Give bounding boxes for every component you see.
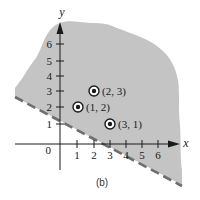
point-label: (1, 2): [86, 101, 110, 114]
y-tick-label-5: 5: [47, 55, 53, 67]
point-label: (2, 3): [102, 85, 126, 98]
figure-caption: (b): [96, 177, 108, 188]
x-tick-label-5: 5: [139, 149, 145, 161]
origin-label: 0: [46, 144, 52, 156]
y-tick-label-2: 2: [47, 101, 53, 113]
y-tick-label-3: 3: [47, 85, 53, 97]
x-tick-label-1: 1: [74, 149, 80, 161]
x-tick-label-2: 2: [91, 149, 97, 161]
point-1-2: (1, 2): [73, 101, 110, 114]
point-label: (3, 1): [118, 118, 142, 131]
y-axis-label: y: [58, 5, 65, 19]
y-tick-label-4: 4: [47, 70, 53, 82]
x-tick-label-3: 3: [107, 149, 113, 161]
y-tick-label-6: 6: [47, 38, 53, 50]
x-tick-label-6: 6: [155, 149, 161, 161]
y-tick-label-1: 1: [47, 118, 53, 130]
x-axis-label: x: [182, 136, 189, 150]
point-3-1: (3, 1): [105, 118, 142, 131]
point-2-3: (2, 3): [89, 85, 126, 98]
graph-figure: 1 2 3 4 5 6 1 2 3 4 5 6 0 x y (1, 2) (2,…: [0, 0, 200, 200]
x-tick-label-4: 4: [123, 149, 129, 161]
